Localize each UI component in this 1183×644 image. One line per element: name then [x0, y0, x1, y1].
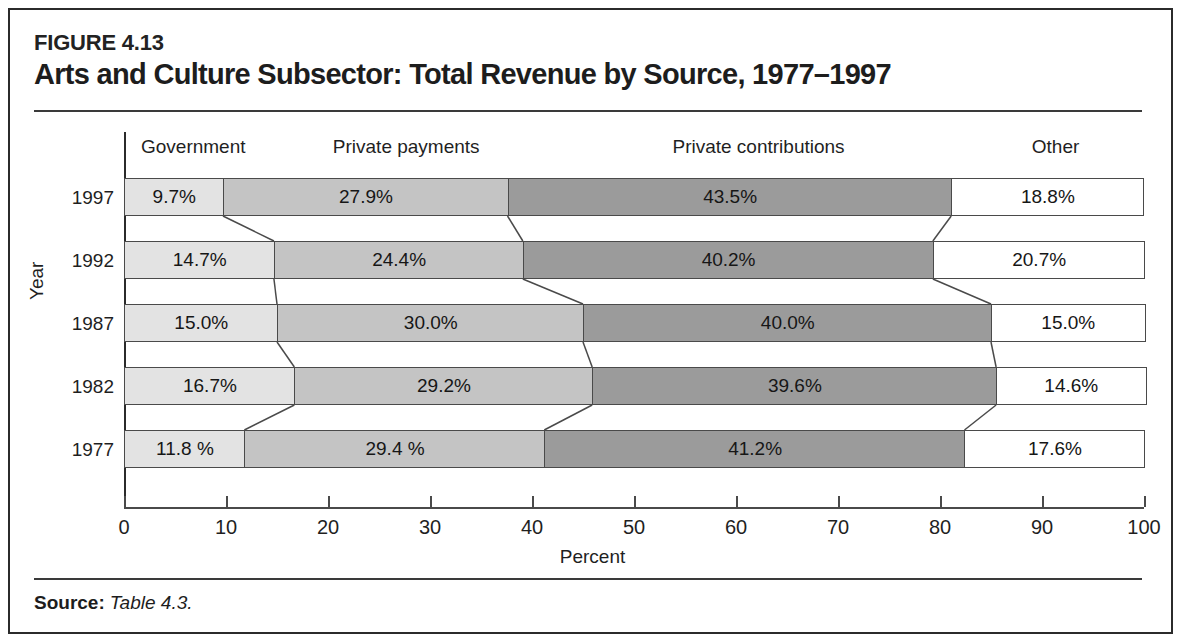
bar-segment-1997-government: 9.7% [124, 178, 224, 216]
x-tick-50 [634, 496, 636, 507]
bar-segment-1997-private-contributions: 43.5% [508, 178, 953, 216]
bar-row-1997: 9.7%27.9%43.5%18.8% [124, 178, 1144, 216]
bar-segment-1997-other: 18.8% [951, 178, 1144, 216]
stacked-bar-chart: Year GovernmentPrivate paymentsPrivate c… [10, 10, 1173, 634]
bar-row-1987: 15.0%30.0%40.0%15.0% [124, 304, 1144, 342]
x-tick-90 [1042, 496, 1044, 507]
bar-row-1977: 11.8 %29.4 %41.2%17.6% [124, 430, 1144, 468]
x-tick-10 [226, 496, 228, 507]
x-tick-label-50: 50 [604, 516, 664, 539]
bar-segment-1992-private-contributions: 40.2% [523, 241, 935, 279]
x-tick-label-80: 80 [910, 516, 970, 539]
x-tick-70 [838, 496, 840, 507]
bar-segment-1982-private-contributions: 39.6% [592, 367, 997, 405]
bar-segment-1987-other: 15.0% [991, 304, 1146, 342]
bar-segment-1992-government: 14.7% [124, 241, 275, 279]
x-tick-label-10: 10 [196, 516, 256, 539]
x-tick-40 [532, 496, 534, 507]
bar-row-1992: 14.7%24.4%40.2%20.7% [124, 241, 1144, 279]
column-header-other: Other [1032, 136, 1080, 158]
x-tick-label-40: 40 [502, 516, 562, 539]
x-tick-100 [1144, 496, 1146, 507]
x-tick-60 [736, 496, 738, 507]
x-tick-label-30: 30 [400, 516, 460, 539]
column-header-private-payments: Private payments [333, 136, 480, 158]
source-label: Source: [34, 592, 105, 613]
column-header-government: Government [141, 136, 246, 158]
figure-frame: FIGURE 4.13 Arts and Culture Subsector: … [8, 8, 1173, 634]
bar-segment-1992-other: 20.7% [933, 241, 1146, 279]
year-tick-label: 1992 [48, 250, 114, 272]
source-line: Source:Table 4.3. [34, 592, 193, 614]
year-tick-label: 1997 [48, 187, 114, 209]
x-tick-label-100: 100 [1114, 516, 1173, 539]
y-axis-title: Year [26, 262, 48, 300]
year-tick-label: 1987 [48, 313, 114, 335]
column-header-private-contributions: Private contributions [672, 136, 844, 158]
bar-segment-1977-other: 17.6% [964, 430, 1145, 468]
bar-segment-1977-private-payments: 29.4 % [244, 430, 545, 468]
source-value: Table 4.3. [110, 592, 193, 613]
x-tick-20 [328, 496, 330, 507]
x-axis-line [124, 507, 1144, 509]
year-tick-label: 1977 [48, 439, 114, 461]
x-tick-30 [430, 496, 432, 507]
bar-segment-1982-other: 14.6% [996, 367, 1146, 405]
bar-segment-1987-government: 15.0% [124, 304, 279, 342]
source-divider [34, 578, 1142, 580]
bar-row-1982: 16.7%29.2%39.6%14.6% [124, 367, 1144, 405]
x-tick-label-20: 20 [298, 516, 358, 539]
bar-segment-1977-private-contributions: 41.2% [544, 430, 966, 468]
bar-segment-1987-private-contributions: 40.0% [583, 304, 993, 342]
bar-segment-1982-government: 16.7% [124, 367, 296, 405]
x-tick-label-90: 90 [1012, 516, 1072, 539]
year-tick-label: 1982 [48, 376, 114, 398]
x-axis-title: Percent [10, 546, 1173, 568]
bar-segment-1992-private-payments: 24.4% [274, 241, 524, 279]
x-tick-label-70: 70 [808, 516, 868, 539]
x-tick-80 [940, 496, 942, 507]
x-tick-label-0: 0 [94, 516, 154, 539]
bar-segment-1987-private-payments: 30.0% [277, 304, 585, 342]
x-tick-0 [124, 496, 126, 507]
bar-segment-1982-private-payments: 29.2% [294, 367, 593, 405]
x-tick-label-60: 60 [706, 516, 766, 539]
bar-segment-1997-private-payments: 27.9% [223, 178, 509, 216]
bar-segment-1977-government: 11.8 % [124, 430, 246, 468]
